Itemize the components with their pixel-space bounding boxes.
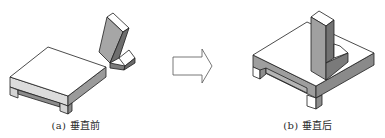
caption-before: (a) 垂直前 xyxy=(51,117,100,132)
l-bracket-a xyxy=(99,13,135,70)
caption-after: (b) 垂直后 xyxy=(283,117,332,132)
base-plate-a xyxy=(10,47,106,114)
right-arrow-icon xyxy=(173,49,212,83)
